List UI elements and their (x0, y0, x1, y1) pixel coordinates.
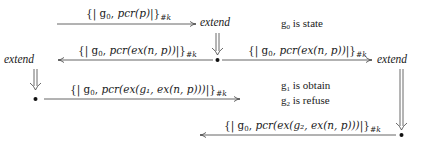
dot-center (216, 58, 220, 62)
node-extend-top: extend (200, 16, 230, 28)
message-m2: {| g0, pcr(ex(n, p))|}#k (78, 44, 197, 61)
message-m1: {| g0, pcr(p)|}#k (86, 7, 171, 24)
legend-g0: g0 is state (281, 17, 323, 34)
dot-left (34, 97, 38, 101)
double-arrow-down-top (212, 33, 223, 55)
message-m4: {| g0, pcr(ex(g₁, ex(n, p)))|}#k (70, 83, 227, 100)
double-arrow-down-left (30, 69, 41, 90)
legend-g2: g2 is refuse (281, 94, 330, 111)
node-extend-right: extend (377, 53, 407, 65)
node-extend-left: extend (4, 53, 34, 65)
dot-right (400, 133, 404, 137)
message-m5: {| g0, pcr(ex(g₂, ex(n, p)))|}#k (224, 119, 381, 136)
message-m3: {| g0, pcr(ex(n, p))|}#k (248, 44, 367, 61)
double-arrow-down-right (396, 69, 407, 130)
